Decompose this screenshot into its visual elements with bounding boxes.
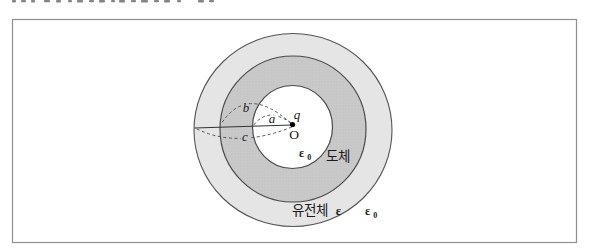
figure-canvas: a b c q O ε 0 도체 유전체 ε ε 0 (0, 0, 589, 252)
label-charge-q: q (294, 107, 301, 122)
epsilon-subscript: 0 (307, 153, 311, 162)
label-radius-c: c (242, 129, 248, 144)
label-epsilon0-outside: ε 0 (365, 204, 377, 220)
label-origin-o: O (289, 127, 299, 142)
label-radius-a: a (269, 111, 276, 126)
label-conductor: 도체 (326, 149, 350, 164)
cropped-text-fragments (12, 0, 214, 3)
epsilon-symbol: ε (365, 204, 370, 218)
dielectric-text: 유전체 (292, 203, 328, 218)
epsilon-symbol: ε (299, 146, 304, 160)
diagram-svg: a b c q O ε 0 도체 유전체 ε ε 0 (0, 0, 589, 252)
label-radius-b: b (243, 100, 250, 115)
dielectric-epsilon-symbol: ε (336, 204, 342, 218)
epsilon-subscript: 0 (373, 211, 377, 220)
